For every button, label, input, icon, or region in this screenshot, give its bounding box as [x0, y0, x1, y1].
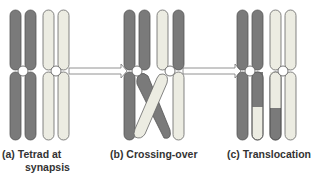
panel-a-label-line1: (a) Tetrad at — [2, 148, 61, 160]
panel-b-label: (b) Crossing-over — [110, 148, 198, 160]
arrow-a-to-b — [69, 64, 127, 78]
arrow-b-to-c — [183, 64, 241, 78]
panel-c-label: (c) Translocation — [227, 148, 311, 160]
panel-a-tetrad — [10, 10, 69, 140]
panel-b-crossing-over — [124, 10, 184, 140]
panel-a-label-line2: synapsis — [25, 161, 70, 173]
panel-c-translocation — [237, 10, 296, 140]
